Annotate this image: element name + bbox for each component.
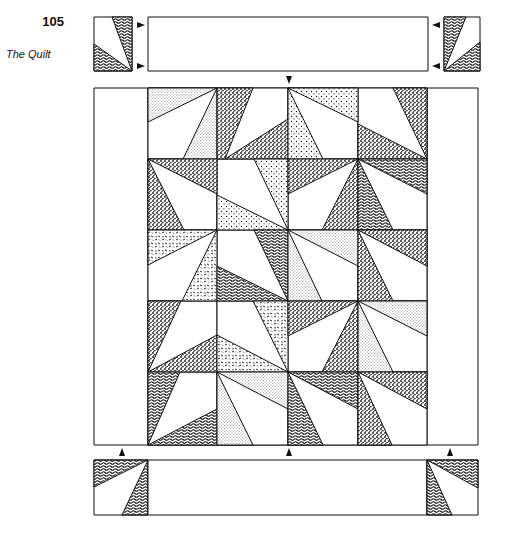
quilt-diagram <box>0 0 513 534</box>
